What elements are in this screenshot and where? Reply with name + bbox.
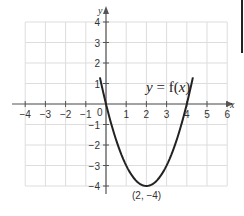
y-axis-arrow-icon bbox=[103, 6, 109, 14]
function-graph: −4−3−2−11234564321−1−2−3−4 y x 0 y = f(x… bbox=[0, 0, 244, 216]
y-axis-label: y bbox=[97, 5, 103, 16]
origin-label: 0 bbox=[97, 107, 103, 118]
y-tick-label: −1 bbox=[89, 120, 101, 131]
x-tick-label: 6 bbox=[224, 109, 230, 120]
x-tick-label: 5 bbox=[204, 109, 210, 120]
x-axis-label: x bbox=[229, 99, 235, 110]
x-tick-label: 3 bbox=[164, 109, 170, 120]
x-tick-label: 1 bbox=[123, 109, 129, 120]
y-tick-label: 4 bbox=[94, 17, 100, 28]
x-tick-label: −2 bbox=[60, 109, 72, 120]
y-tick-label: −3 bbox=[89, 161, 101, 172]
x-tick-label: −3 bbox=[40, 109, 52, 120]
vertex-label: (2, −4) bbox=[132, 190, 161, 201]
x-tick-label: −1 bbox=[80, 109, 92, 120]
y-tick-label: 3 bbox=[94, 38, 100, 49]
x-tick-label: 2 bbox=[144, 109, 150, 120]
y-tick-label: −2 bbox=[89, 140, 101, 151]
y-tick-label: −4 bbox=[89, 181, 101, 192]
function-label: y = f(x) bbox=[144, 79, 190, 96]
edge-divider bbox=[241, 0, 243, 53]
y-tick-label: 2 bbox=[94, 58, 100, 69]
x-tick-label: −4 bbox=[19, 109, 31, 120]
